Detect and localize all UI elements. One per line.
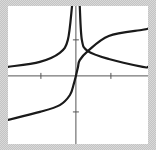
odd-curve (8, 29, 148, 120)
plot-area (8, 6, 148, 144)
even-curve-left (8, 6, 72, 67)
even-curve-right (80, 6, 148, 67)
